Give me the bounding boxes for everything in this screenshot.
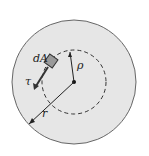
label-tau: τ bbox=[25, 75, 32, 88]
label-rho: ρ bbox=[76, 59, 84, 72]
label-dA: dA bbox=[33, 52, 48, 65]
label-r: r bbox=[42, 107, 48, 120]
shaft-cross-section-diagram: dA ρ τ r bbox=[0, 0, 149, 156]
